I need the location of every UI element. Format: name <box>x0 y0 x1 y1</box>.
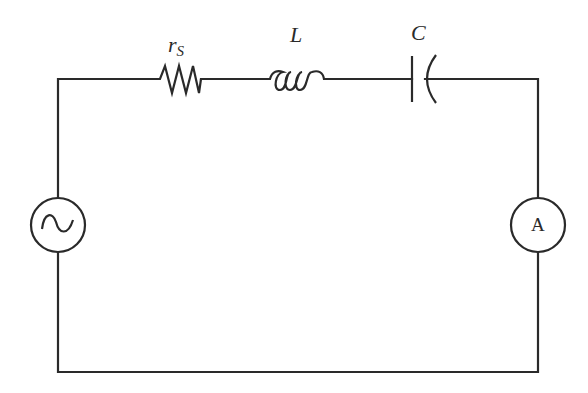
resistor-subscript: S <box>177 43 185 59</box>
inductor-label: L <box>290 24 302 46</box>
wire-right-top <box>425 79 538 198</box>
capacitor-label: C <box>411 22 426 44</box>
resistor-label: rS <box>168 34 184 59</box>
ac-source-icon <box>31 198 85 252</box>
wire-right-bottom <box>58 252 538 372</box>
wires <box>58 79 538 372</box>
ammeter-label: A <box>531 215 545 234</box>
circuit-diagram <box>0 0 588 393</box>
inductor-symbol: L <box>290 22 302 47</box>
wire-left-top <box>58 79 157 198</box>
resistor-symbol: r <box>168 32 177 57</box>
inductor-icon <box>268 71 326 90</box>
resistor-icon <box>157 66 201 93</box>
capacitor-symbol: C <box>411 20 426 45</box>
